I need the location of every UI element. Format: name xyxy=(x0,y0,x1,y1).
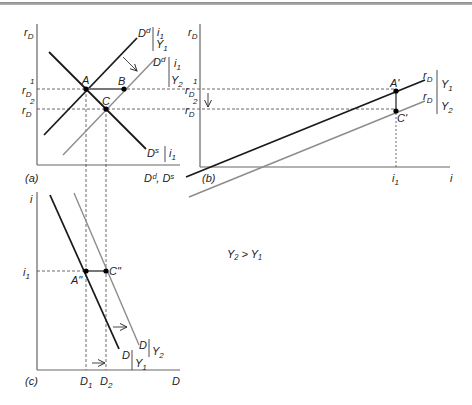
tick-r2-b: rD xyxy=(185,104,195,119)
tick-r2: rD xyxy=(22,104,32,119)
panel-c: i i1 A" C" D Y2 D Y1 (c) D1 D2 D xyxy=(23,192,180,390)
supply-curve xyxy=(49,52,146,149)
diagram-canvas: rD rD 1 rD 2 A B C Dd i1 Y1 Dd i1 Y2 Ds … xyxy=(0,0,472,405)
panel-c-y-label: i xyxy=(30,193,33,205)
shift-arrow-a xyxy=(123,57,137,71)
panel-b-x-label: i xyxy=(450,172,453,184)
label-d-y2: D xyxy=(139,339,147,351)
demand-curve-y2 xyxy=(63,59,155,155)
panel-b-y-label: rD xyxy=(188,26,198,41)
point-c-dprime xyxy=(103,268,108,273)
panel-a-y-label: rD xyxy=(24,26,34,41)
tick-i1: i1 xyxy=(392,172,399,187)
tick-r2-sup-b: 2 xyxy=(192,97,198,106)
tick-r2-sup: 2 xyxy=(29,97,35,106)
panel-b-tag: (b) xyxy=(202,172,216,184)
label-c-dprime: C" xyxy=(109,265,122,277)
cond-y2-c: Y2 xyxy=(152,345,164,360)
cond-y2-b: Y2 xyxy=(441,100,453,115)
label-demand-y2: Dd xyxy=(153,55,166,68)
label-c: C xyxy=(102,95,110,107)
label-rd-y2: rD xyxy=(423,90,433,105)
point-a-prime xyxy=(393,88,398,93)
panel-c-tag: (c) xyxy=(25,375,38,387)
cond-i1: i1 xyxy=(169,147,176,162)
point-b xyxy=(121,86,126,91)
panel-c-x-label: D xyxy=(172,375,180,387)
tick-i1-c: i1 xyxy=(23,266,30,281)
tick-r1-sup-b: 1 xyxy=(193,77,197,86)
condition-label: Y₂ > Y₁ xyxy=(227,248,262,260)
panel-a-tag: (a) xyxy=(25,172,39,184)
panel-b: rD rD 1 rD 2 A' C' rD Y1 rD Y2 (b) i1 i xyxy=(185,24,453,197)
label-b: B xyxy=(118,75,125,87)
tick-D1: D1 xyxy=(80,375,92,390)
cond-y1-b: Y1 xyxy=(441,78,453,93)
tick-r1-sup: 1 xyxy=(30,77,34,86)
tick-D2: D2 xyxy=(100,375,113,390)
label-a-dprime: A" xyxy=(70,274,83,286)
label-rd-y1: rD xyxy=(423,69,433,84)
cond-i1: i1 xyxy=(174,57,181,72)
cond-y1: Y1 xyxy=(156,38,168,53)
rd-curve-y1 xyxy=(186,80,425,177)
label-d-y1: D xyxy=(122,349,130,361)
cond-y2: Y2 xyxy=(171,74,183,89)
label-c-prime: C' xyxy=(397,112,408,124)
point-a xyxy=(83,86,88,91)
label-demand-y1: Dd xyxy=(138,26,151,39)
point-a-dprime xyxy=(83,268,88,273)
label-supply: Ds xyxy=(147,146,159,159)
label-a: A xyxy=(81,74,89,86)
rd-curve-y2 xyxy=(189,101,425,197)
panel-a-x-label: Dᵈ, Dˢ xyxy=(144,172,174,184)
point-c xyxy=(103,106,108,111)
panel-a: rD rD 1 rD 2 A B C Dd i1 Y1 Dd i1 Y2 Ds … xyxy=(22,24,236,370)
label-a-prime: A' xyxy=(389,77,400,89)
